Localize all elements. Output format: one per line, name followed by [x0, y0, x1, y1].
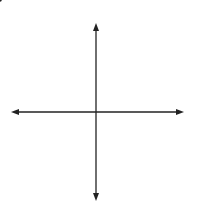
- coordinate-plane: [0, 0, 203, 209]
- y-axis-down-arrow-icon: [93, 193, 99, 201]
- y-axis-up-arrow-icon: [93, 23, 99, 31]
- y-intercept-point: [0, 0, 2, 2]
- x-axis-right-arrow-icon: [176, 109, 184, 115]
- x-axis-left-arrow-icon: [11, 109, 19, 115]
